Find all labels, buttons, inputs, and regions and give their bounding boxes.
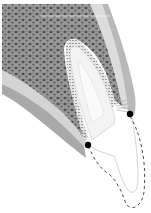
marker-lingual-dot — [127, 111, 133, 117]
tooth-diagram — [0, 0, 151, 213]
marker-labial-dot — [85, 142, 91, 148]
diagram-svg — [0, 0, 151, 213]
